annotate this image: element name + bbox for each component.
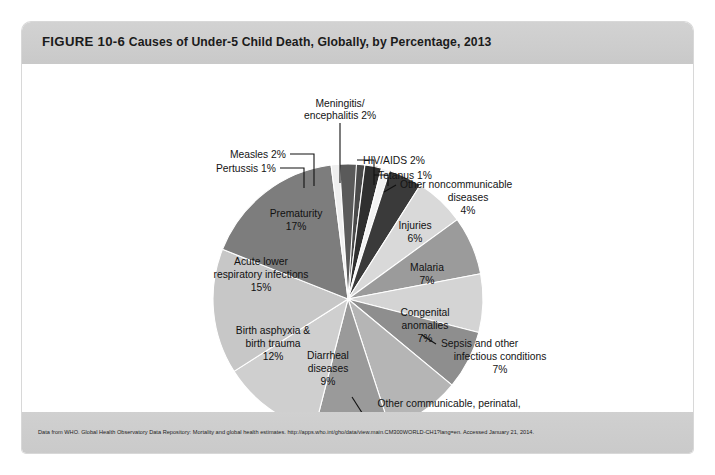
- label-birth-line3: 12%: [263, 351, 284, 362]
- label-alri-line1: Acute lower: [234, 256, 288, 267]
- label-sepsis-line2: infectious conditions: [454, 351, 547, 362]
- label-malaria-line1: Malaria: [410, 262, 444, 273]
- label-diarrheal-line2: diseases: [308, 363, 349, 374]
- figure-card: FIGURE 10-6 Causes of Under-5 Child Deat…: [22, 22, 693, 453]
- label-pertussis: Pertussis 1%: [216, 163, 276, 174]
- label-prematurity-line2: 17%: [286, 221, 307, 232]
- label-noncommunicable-line1: Other noncommunicable: [400, 179, 512, 190]
- label-congenital-line1: Congenital: [400, 307, 449, 318]
- label-birth-line1: Birth asphyxia &: [236, 325, 311, 336]
- label-diarrheal-line1: Diarrheal: [307, 350, 349, 361]
- label-othercommunicable-line1: Other communicable, perinatal,: [377, 398, 520, 409]
- label-noncommunicable-line2: diseases: [448, 192, 489, 203]
- figure-header-bar: FIGURE 10-6 Causes of Under-5 Child Deat…: [22, 22, 693, 64]
- label-meningitis-line1: Meningitis/: [315, 98, 364, 109]
- figure-caption: Causes of Under-5 Child Death, Globally,…: [129, 35, 492, 49]
- label-meningitis-line2: encephalitis 2%: [304, 110, 376, 121]
- figure-root: FIGURE 10-6 Causes of Under-5 Child Deat…: [0, 0, 715, 475]
- label-prematurity-line1: Prematurity: [270, 208, 323, 219]
- figure-body: Meningitis/ encephalitis 2% Measles 2% P…: [22, 64, 693, 412]
- label-malaria-line2: 7%: [420, 275, 435, 286]
- figure-source-text: Data from WHO. Global Health Observatory…: [38, 428, 683, 436]
- label-congenital-line3: 7%: [418, 333, 433, 344]
- label-hivaids: HIV/AIDS 2%: [363, 155, 425, 166]
- label-birth-line2: birth trauma: [246, 338, 301, 349]
- figure-footer-bar: Data from WHO. Global Health Observatory…: [22, 412, 693, 453]
- label-alri-line3: 15%: [251, 282, 272, 293]
- label-sepsis-line1: Sepsis and other: [441, 338, 519, 349]
- label-diarrheal-line3: 9%: [321, 376, 336, 387]
- label-sepsis-line3: 7%: [493, 364, 508, 375]
- label-alri-line2: respiratory infections: [214, 269, 309, 280]
- figure-title: FIGURE 10-6 Causes of Under-5 Child Deat…: [42, 34, 491, 49]
- label-noncommunicable-line3: 4%: [461, 205, 476, 216]
- label-injuries-line2: 6%: [408, 233, 423, 244]
- pie-chart: Meningitis/ encephalitis 2% Measles 2% P…: [22, 64, 693, 412]
- label-congenital-line2: anomalies: [402, 320, 449, 331]
- figure-number: FIGURE 10-6: [42, 34, 125, 49]
- label-measles: Measles 2%: [230, 149, 286, 160]
- label-injuries-line1: Injuries: [398, 220, 431, 231]
